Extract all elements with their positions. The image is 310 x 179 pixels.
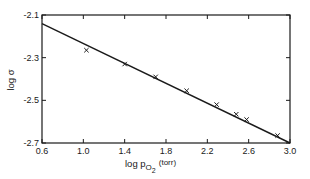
y-tick-label: -2.5 bbox=[23, 95, 39, 105]
svg-text:log pO2(torr): log pO2(torr) bbox=[125, 158, 176, 174]
data-point-x-marker bbox=[184, 89, 188, 93]
chart: 0.61.01.41.82.22.63.0 -2.1-2.3-2.5-2.7 l… bbox=[0, 0, 310, 179]
y-tick-label: -2.1 bbox=[23, 10, 39, 20]
x-tick-label: 1.8 bbox=[160, 146, 173, 156]
data-point-x-marker bbox=[214, 102, 218, 106]
x-axis-label: log pO2(torr) bbox=[125, 158, 176, 174]
data-point-x-marker bbox=[244, 117, 248, 121]
y-tick-label: -2.3 bbox=[23, 53, 39, 63]
fit-line bbox=[42, 24, 290, 143]
x-axis-ticks: 0.61.01.41.82.22.63.0 bbox=[36, 15, 297, 156]
x-tick-label: 1.0 bbox=[77, 146, 90, 156]
data-point-x-marker bbox=[84, 48, 88, 52]
x-tick-label: 3.0 bbox=[284, 146, 297, 156]
y-tick-label: -2.7 bbox=[23, 138, 39, 148]
plot-frame bbox=[42, 15, 290, 143]
y-axis-label: log σ bbox=[5, 69, 16, 90]
x-tick-label: 2.2 bbox=[201, 146, 214, 156]
x-tick-label: 2.6 bbox=[242, 146, 255, 156]
x-tick-label: 1.4 bbox=[118, 146, 131, 156]
data-point-x-marker bbox=[234, 112, 238, 116]
